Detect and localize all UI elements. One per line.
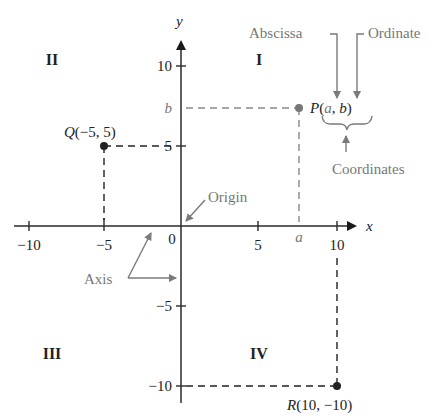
- y-axis-label: y: [174, 13, 183, 29]
- abscissa-label: Abscissa: [249, 25, 303, 41]
- origin-zero-label: 0: [168, 231, 176, 247]
- coordinate-plane-diagram: x y −10 −5 5 10 0 a 10 5 −5 −10 b II I I…: [0, 0, 444, 420]
- a-symbol-label: a: [295, 229, 303, 245]
- point-p-label: P(a, b): [309, 100, 352, 117]
- quadrant-4-label: IV: [250, 345, 268, 362]
- x-tick-label: 5: [254, 237, 262, 253]
- ordinate-label: Ordinate: [368, 25, 421, 41]
- x-ticks: [29, 218, 337, 231]
- point-r-dot: [333, 382, 341, 390]
- axis-label: Axis: [84, 271, 113, 287]
- origin-arrow: [186, 200, 205, 221]
- quadrant-1-label: I: [256, 51, 262, 68]
- x-tick-label: −10: [17, 237, 40, 253]
- x-tick-label: −5: [96, 237, 112, 253]
- origin-label: Origin: [208, 189, 248, 205]
- point-q-label: QQ(−5, 5)(−5, 5): [64, 124, 116, 141]
- abscissa-arrow: [330, 34, 337, 98]
- quadrant-2-label: II: [46, 51, 58, 68]
- y-tick-label: 10: [157, 58, 172, 74]
- x-tick-label: 10: [330, 237, 345, 253]
- b-symbol-label: b: [165, 100, 173, 116]
- point-q-dot: [100, 142, 108, 150]
- coordinates-label: Coordinates: [332, 161, 405, 177]
- ordinate-arrow: [357, 34, 364, 98]
- y-tick-label: −10: [149, 378, 172, 394]
- point-r: [186, 258, 341, 390]
- coordinate-plane-svg: x y −10 −5 5 10 0 a 10 5 −5 −10 b II I I…: [0, 0, 444, 420]
- y-tick-label: −5: [156, 298, 172, 314]
- point-p-dot: [295, 104, 303, 112]
- coordinates-brace: [322, 116, 372, 130]
- point-r-label: R(10, −10): [286, 397, 352, 414]
- x-axis-label: x: [365, 218, 373, 234]
- axis-arrow-x: [128, 233, 151, 278]
- quadrant-3-label: III: [43, 345, 62, 362]
